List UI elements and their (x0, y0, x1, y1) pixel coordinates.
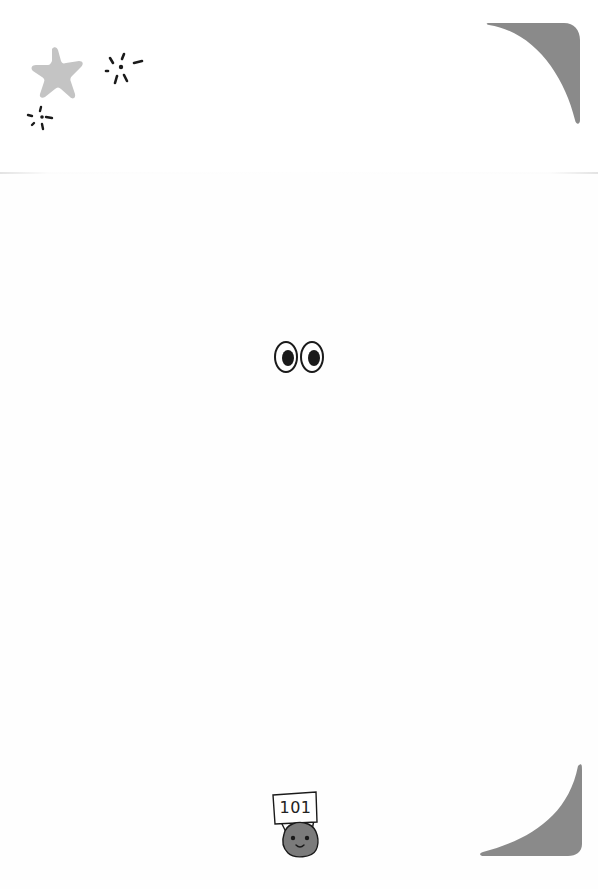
googly-eyes-icon (273, 339, 327, 375)
corner-decoration-bottom-right (478, 762, 582, 858)
sparkle-icon (102, 50, 146, 86)
page-divider (0, 172, 598, 174)
star-icon (30, 46, 88, 100)
sparkle-small-icon (24, 104, 58, 134)
page-number: 101 (275, 798, 316, 817)
corner-decoration-top-right (486, 20, 582, 126)
page-number-mascot: 101 (270, 790, 326, 860)
book-page: 101 (0, 0, 598, 889)
